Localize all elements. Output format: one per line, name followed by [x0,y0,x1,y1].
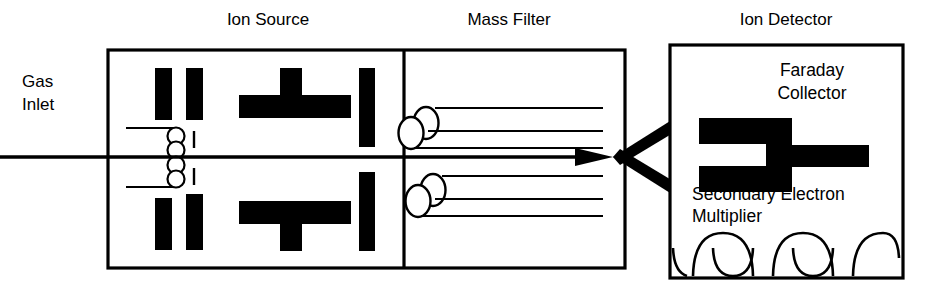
label-gas-inlet-line2: Inlet [22,95,54,114]
label-sem-line2: Multiplier [692,206,762,226]
mass-spectrometer-diagram: Ion Source Mass Filter Ion Detector Gas … [0,0,936,292]
source-electrode-upper-2 [186,68,203,120]
label-ion-source: Ion Source [227,10,309,29]
label-faraday-line2: Collector [777,83,846,103]
schematic-canvas: Ion Source Mass Filter Ion Detector Gas … [0,0,936,292]
label-mass-filter: Mass Filter [467,10,550,29]
source-exit-plate-upper [359,68,375,147]
label-faraday-line1: Faraday [780,60,844,80]
label-gas-inlet-line1: Gas [22,72,53,91]
source-exit-plate-lower [359,172,375,251]
filament-coil-4 [168,171,185,188]
source-electrode-lower-1 [155,198,172,250]
label-sem-line1: Secondary Electron [692,184,845,204]
label-ion-detector: Ion Detector [740,10,833,29]
source-electrode-upper-1 [155,68,172,120]
source-electrode-lower-2 [186,194,203,250]
